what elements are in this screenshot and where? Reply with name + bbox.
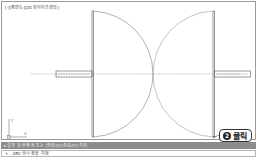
command-history: ▸ 결과 첫 번째 점 또는 [명령(U)/종료(E)] 지정: (1, 142, 256, 149)
svg-text:X: X (24, 131, 27, 136)
ucs-icon: Y X (7, 117, 29, 139)
command-line-input[interactable]: ✕ ARC 하나 점을 지정 (1, 150, 256, 157)
command-prompt: ARC 하나 점을 지정 (13, 151, 49, 156)
close-icon[interactable]: ✕ (5, 151, 8, 156)
step-number-badge: 2 (223, 132, 231, 140)
step-callout: 2 클릭 (219, 129, 252, 142)
svg-text:Y: Y (10, 118, 14, 123)
door-plan-drawing (2, 2, 256, 140)
callout-text: 클릭 (233, 130, 247, 141)
drawing-viewport[interactable]: [-][평면도][2D 와이어프레임] Y X (1, 1, 256, 140)
